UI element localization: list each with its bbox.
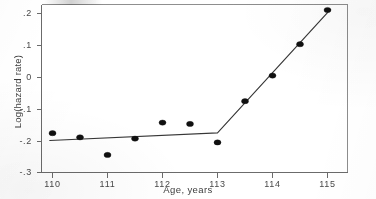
- data-point-group: [49, 7, 331, 157]
- data-point: [269, 73, 276, 78]
- y-tick-label-0: .2: [10, 8, 32, 18]
- data-point: [159, 120, 166, 125]
- data-point: [187, 121, 194, 126]
- x-axis-title: Age, years: [0, 184, 376, 195]
- y-axis-title: Log(hazard rate): [12, 27, 23, 157]
- y-tick-label-5: -.3: [6, 167, 32, 177]
- chart-plot-area: [0, 0, 376, 199]
- data-point: [297, 42, 304, 47]
- data-point: [242, 99, 249, 104]
- hazard-rate-chart-figure: .2 .1 0 -.1 -.2 -.3 110 111 112 113 114 …: [0, 0, 376, 199]
- data-point: [132, 136, 139, 141]
- data-point: [104, 152, 111, 157]
- data-point: [324, 7, 331, 12]
- data-point: [214, 140, 221, 145]
- data-point: [49, 131, 56, 136]
- piecewise-fit-line: [50, 10, 331, 141]
- data-point: [77, 135, 84, 140]
